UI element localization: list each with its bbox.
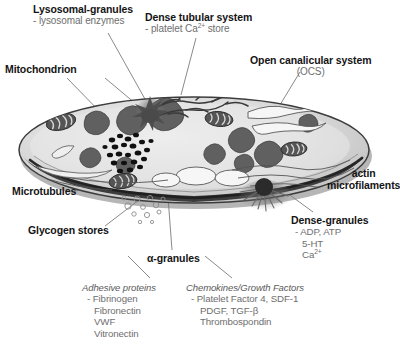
mitochondrion-heading: Mitochondrion <box>5 63 77 75</box>
glycogen-stores-heading: Glycogen stores <box>28 224 109 236</box>
lysosomal-granules-sub: - lysosomal enzymes <box>33 15 133 27</box>
label-actin-microfilaments: actin microfilaments <box>327 167 400 192</box>
adhesive-proteins-item-1: - Fibrinogen <box>82 293 156 304</box>
alpha-granules-heading: α-granules <box>147 252 200 264</box>
actin-line2: microfilaments <box>327 179 400 191</box>
dense-granules-item-3: Ca2+ <box>291 249 368 260</box>
label-lysosomal-granules: Lysosomal-granules - lysosomal enzymes <box>33 3 133 27</box>
label-dense-tubular-system: Dense tubular system - platelet Ca2+ sto… <box>145 11 252 35</box>
label-mitochondrion: Mitochondrion <box>5 63 77 75</box>
dense-granules-heading: Dense-granules <box>291 214 368 226</box>
label-adhesive-proteins: Adhesive proteins - Fibrinogen Fibronect… <box>82 282 156 339</box>
chemokines-heading: Chemokines/Growth Factors <box>186 282 304 293</box>
ocs-heading: Open canalicular system <box>250 54 371 66</box>
label-glycogen-stores: Glycogen stores <box>28 224 109 236</box>
adhesive-proteins-item-2: Fibronectin <box>82 305 156 316</box>
chemokines-item-3: Thrombospondin <box>186 316 304 327</box>
adhesive-proteins-heading: Adhesive proteins <box>82 282 156 293</box>
lysosomal-granules-heading: Lysosomal-granules <box>33 3 133 15</box>
chemokines-item-1: - Platelet Factor 4, SDF-1 <box>186 293 304 304</box>
label-dense-granules: Dense-granules - ADP, ATP 5-HT Ca2+ <box>291 214 368 261</box>
label-microtubules: Microtubules <box>12 185 76 197</box>
actin-line1: actin <box>327 167 400 179</box>
adhesive-proteins-item-4: Vitronectin <box>82 328 156 339</box>
chemokines-item-2: PDGF, TGF-β <box>186 305 304 316</box>
adhesive-proteins-item-3: VWF <box>82 316 156 327</box>
ocs-abbrev: (OCS) <box>250 66 371 78</box>
dense-tubular-sub: - platelet Ca2+ store <box>145 23 252 35</box>
label-open-canalicular-system: Open canalicular system (OCS) <box>250 54 371 78</box>
dense-granules-item-1: - ADP, ATP <box>291 226 368 237</box>
label-chemokines-growth-factors: Chemokines/Growth Factors - Platelet Fac… <box>186 282 304 328</box>
microtubules-heading: Microtubules <box>12 185 76 197</box>
dense-granules-item-2: 5-HT <box>291 238 368 249</box>
label-alpha-granules: α-granules <box>147 252 200 264</box>
